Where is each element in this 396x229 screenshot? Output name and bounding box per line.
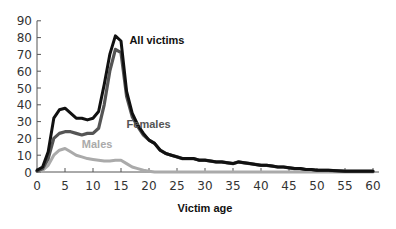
x-tick-label: 30 — [197, 179, 212, 193]
y-tick-label: 80 — [17, 31, 32, 45]
series-line-females — [37, 49, 373, 171]
y-tick-label: 90 — [17, 14, 32, 28]
x-tick-label: 0 — [33, 179, 41, 193]
x-tick-label: 25 — [169, 179, 184, 193]
y-tick-label: 20 — [17, 132, 32, 146]
y-tick-label: 10 — [17, 149, 32, 163]
series-lines — [37, 36, 373, 172]
label-females: Females — [127, 118, 171, 130]
x-tick-label: 5 — [61, 179, 69, 193]
line-chart: 0102030405060708090 05101520253035404550… — [0, 0, 396, 229]
label-all-victims: All victims — [129, 34, 184, 46]
x-tick-label: 10 — [85, 179, 100, 193]
x-axis-title: Victim age — [178, 202, 233, 214]
y-tick-label: 60 — [17, 65, 32, 79]
y-tick-label: 0 — [24, 166, 32, 180]
x-tick-label: 45 — [281, 179, 296, 193]
label-males: Males — [82, 138, 113, 150]
y-tick-label: 70 — [17, 48, 32, 62]
y-tick-label: 40 — [17, 98, 32, 112]
x-tick-label: 35 — [225, 179, 240, 193]
y-axis: 0102030405060708090 — [17, 14, 41, 179]
series-labels: All victimsFemalesMales — [82, 34, 185, 150]
series-line-all-victims — [37, 36, 373, 171]
x-tick-label: 50 — [309, 179, 324, 193]
x-tick-label: 60 — [365, 179, 380, 193]
y-tick-label: 50 — [17, 82, 32, 96]
x-tick-label: 55 — [337, 179, 352, 193]
x-tick-label: 20 — [141, 179, 156, 193]
x-tick-label: 15 — [113, 179, 128, 193]
x-tick-label: 40 — [253, 179, 268, 193]
y-tick-label: 30 — [17, 115, 32, 129]
